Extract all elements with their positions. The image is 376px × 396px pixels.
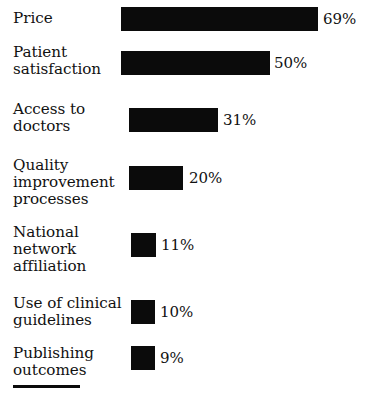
bar-national-network	[131, 233, 156, 257]
bar-category-label: Patient satisfaction	[13, 44, 101, 78]
bar-value-label: 9%	[160, 346, 184, 370]
bar-value-label: 69%	[323, 7, 356, 31]
bar-access-to-doctors	[129, 108, 218, 132]
bar-publishing-outcomes	[131, 346, 155, 370]
bar-category-label: Quality improvement processes	[13, 157, 115, 209]
bar-chart-figure: Price 69% Patient satisfaction 50% Acces…	[0, 0, 376, 396]
bar-category-label: Publishing outcomes	[13, 345, 94, 379]
bar-value-label: 50%	[274, 51, 307, 75]
bar-value-label: 10%	[160, 300, 193, 324]
footer-rule	[13, 385, 80, 388]
bar-category-label: Price	[13, 10, 53, 27]
bar-category-label: Use of clinical guidelines	[13, 295, 122, 329]
bar-value-label: 11%	[161, 233, 194, 257]
bar-category-label: Access to doctors	[13, 101, 85, 135]
bar-category-label: National network affiliation	[13, 224, 86, 276]
bar-value-label: 31%	[223, 108, 256, 132]
bar-quality-improvement	[129, 166, 183, 190]
bar-price	[121, 7, 318, 31]
bar-value-label: 20%	[189, 166, 222, 190]
bar-patient-satisfaction	[121, 51, 270, 75]
bar-clinical-guidelines	[131, 300, 155, 324]
